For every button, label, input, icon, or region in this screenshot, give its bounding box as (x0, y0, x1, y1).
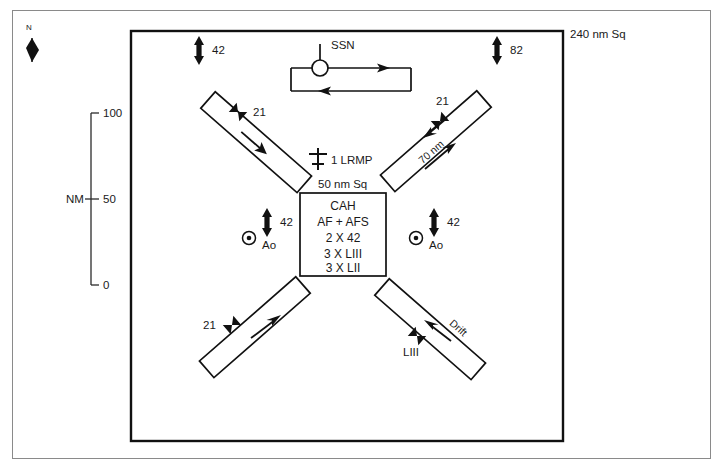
ao-marker-right: Ao (410, 232, 444, 252)
bowtie-marker-icon (431, 112, 449, 130)
center-box-line-4: 3 X LIII (324, 247, 362, 261)
barrier-lower-left-corridor (199, 277, 310, 378)
bowtie-marker-icon (408, 327, 426, 345)
scale-axis-label: NM (66, 193, 84, 205)
ao-marker-left-label: Ao (262, 239, 276, 251)
barrier-upper-right: 21 70 nm (380, 91, 491, 192)
barrier-upper-left-marker-label: 21 (253, 106, 266, 118)
helo-marker-top: 42 (194, 36, 225, 65)
barrier-lower-left-marker-label: 21 (203, 319, 216, 331)
tactical-area-diagram: 240 nm Sq N 100 50 0 NM 42 (0, 0, 723, 469)
ssn-patrol-track: SSN (291, 39, 411, 96)
center-box-line-2: AF + AFS (317, 215, 369, 229)
helo-marker-center-right-count: 42 (447, 216, 460, 228)
outer-area-label: 240 nm Sq (570, 28, 626, 40)
vertical-double-arrow-icon (429, 208, 439, 237)
barrier-lower-right: LIII Drift (375, 279, 486, 380)
helo-marker-top-right: 82 (492, 36, 523, 65)
nm-scale-bar (85, 113, 99, 285)
barrier-upper-right-marker-label: 21 (436, 95, 449, 107)
barrier-lower-right-marker-label: LIII (403, 346, 419, 358)
helo-marker-top-right-count: 82 (510, 44, 523, 56)
center-box-line-1: CAH (330, 199, 355, 213)
circle-dot-icon (243, 232, 256, 245)
north-arrow-label: N (26, 23, 32, 32)
center-box-line-3: 2 X 42 (326, 231, 361, 245)
helo-marker-top-count: 42 (212, 44, 225, 56)
helo-marker-center-right: 42 (429, 208, 460, 237)
barrier-lower-right-leg-label: Drift (447, 317, 469, 339)
helo-marker-center-left-count: 42 (280, 216, 293, 228)
center-box-line-5: 3 X LII (326, 261, 361, 275)
ao-marker-right-label: Ao (429, 239, 443, 251)
diagram-page: 240 nm Sq N 100 50 0 NM 42 (0, 0, 723, 469)
barrier-upper-left: 21 (201, 92, 312, 193)
ssn-label: SSN (331, 39, 355, 51)
vertical-double-arrow-icon (262, 208, 272, 237)
scale-tick-100: 100 (103, 107, 122, 119)
north-arrow-icon (26, 38, 39, 62)
aircraft-lrmp-icon (309, 148, 327, 170)
page-border (13, 11, 711, 459)
vertical-double-arrow-icon (194, 36, 204, 65)
scale-tick-0: 0 (103, 279, 109, 291)
center-area-label: 50 nm Sq (318, 178, 367, 190)
lrmp-count-label: 1 LRMP (331, 154, 373, 166)
bowtie-marker-icon (223, 316, 241, 334)
helo-marker-center-left: 42 (262, 208, 293, 237)
barrier-lower-left: 21 (199, 277, 310, 378)
submarine-periscope-icon (312, 44, 328, 76)
ao-marker-left: Ao (243, 232, 277, 252)
scale-tick-50: 50 (103, 193, 116, 205)
vertical-double-arrow-icon (492, 36, 502, 65)
circle-dot-icon (410, 232, 423, 245)
